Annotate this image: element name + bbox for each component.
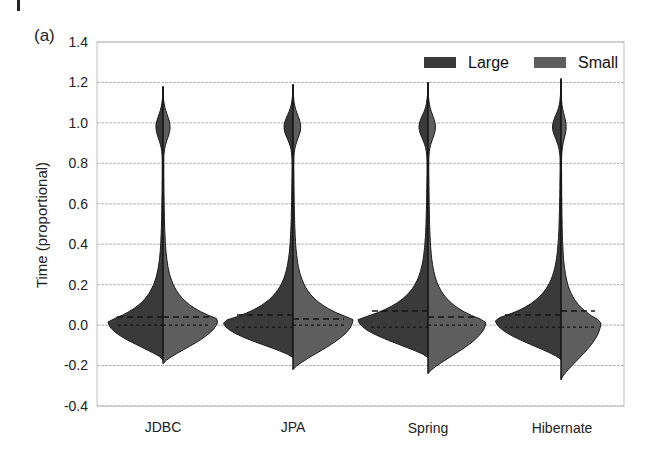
- x-tick-jpa: JPA: [281, 419, 306, 435]
- panel-label: (a): [34, 26, 55, 45]
- legend-swatch-small: [534, 57, 566, 68]
- y-tick: 1.2: [69, 74, 89, 90]
- violin-jdbc: [108, 86, 218, 363]
- violins: [108, 78, 601, 379]
- legend-label-large: Large: [468, 54, 509, 71]
- violin-half-large: [108, 86, 163, 359]
- y-tick: 1.0: [69, 115, 89, 131]
- x-axis-ticks: JDBC JPA Spring Hibernate: [145, 419, 593, 436]
- y-tick: 0.2: [69, 277, 89, 293]
- violin-spring: [358, 82, 486, 373]
- y-axis-ticks: 1.4 1.2 1.0 0.8 0.6 0.4 0.2 0.0 -0.2 -0.…: [64, 34, 88, 414]
- violin-hibernate: [495, 78, 601, 379]
- violin-chart: (a) 1.4 1.2 1.0 0.8 0.6 0.4 0.2 0.0 -0.2…: [0, 0, 660, 457]
- y-tick: -0.2: [64, 357, 88, 373]
- violin-half-small: [428, 82, 486, 373]
- violin-half-large: [223, 84, 293, 357]
- legend: Large Small: [424, 54, 618, 71]
- y-tick: 1.4: [69, 34, 89, 50]
- legend-label-small: Small: [578, 54, 618, 71]
- violin-half-small: [163, 86, 218, 363]
- violin-half-small: [561, 78, 601, 379]
- y-tick: 0.8: [69, 155, 89, 171]
- y-tick: -0.4: [64, 398, 88, 414]
- y-tick: 0.4: [69, 236, 89, 252]
- legend-swatch-large: [424, 57, 456, 68]
- x-tick-hibernate: Hibernate: [532, 420, 593, 436]
- violin-jpa: [223, 84, 353, 369]
- corner-mark: [17, 0, 20, 11]
- y-tick: 0.0: [69, 317, 89, 333]
- x-tick-jdbc: JDBC: [145, 419, 182, 435]
- violin-half-large: [495, 80, 561, 359]
- violin-half-large: [358, 82, 428, 357]
- y-axis-label: Time (proportional): [33, 162, 50, 288]
- y-tick: 0.6: [69, 196, 89, 212]
- x-tick-spring: Spring: [408, 420, 448, 436]
- violin-half-small: [293, 84, 353, 369]
